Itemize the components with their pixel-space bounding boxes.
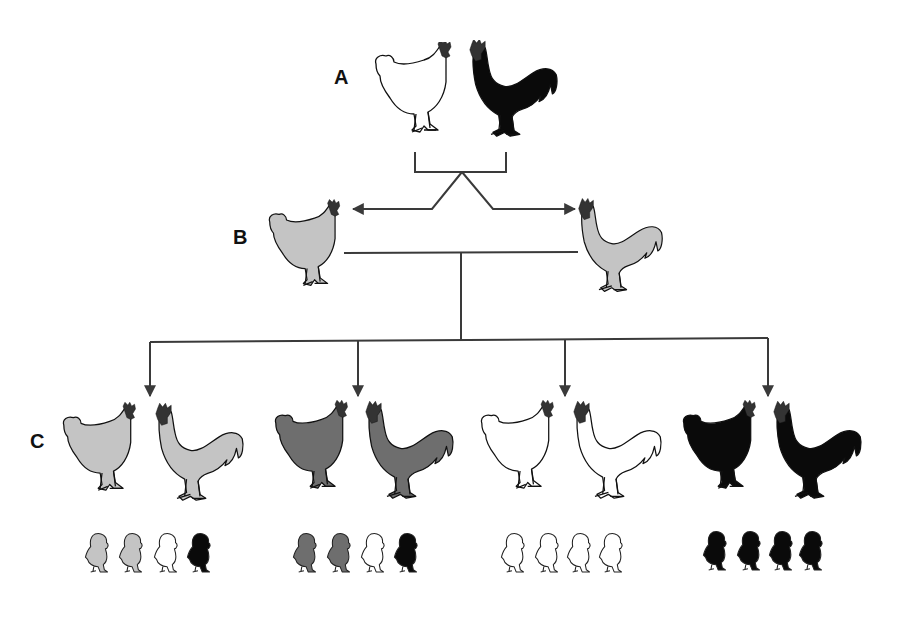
gen-c-cross-2-chicks — [293, 534, 417, 572]
gen-a-hen-white — [376, 40, 451, 132]
gen-c-cross-3-chicks — [501, 534, 622, 572]
gen-c-cross-4-chicks — [703, 532, 822, 570]
gen-c-cross-3 — [481, 400, 661, 572]
gen-b-connector — [150, 252, 768, 396]
gen-a-connector — [353, 152, 575, 209]
gen-c-cross-1 — [63, 402, 243, 572]
gen-b-hen-light-gray — [269, 199, 339, 285]
gen-a-rooster-black — [470, 39, 557, 136]
gen-c-cross-2 — [275, 400, 453, 572]
gen-b-rooster-light-gray — [579, 198, 663, 291]
gen-c-cross-4 — [683, 400, 861, 570]
inheritance-diagram — [0, 0, 900, 618]
gen-c-cross-1-chicks — [85, 534, 210, 572]
